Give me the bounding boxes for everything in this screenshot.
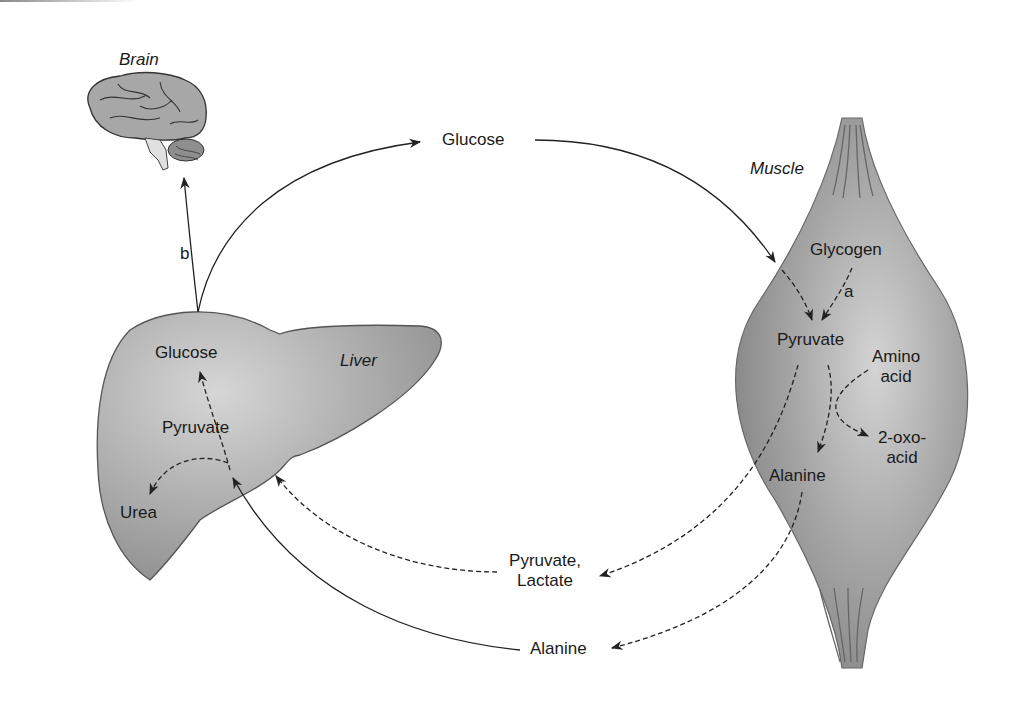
label-blood-alanine: Alanine <box>530 639 587 659</box>
label-2-oxo-acid: 2-oxo- acid <box>872 428 932 469</box>
label-liver-pyruvate: Pyruvate <box>162 418 229 438</box>
label-muscle-pyruvate: Pyruvate <box>777 330 844 350</box>
label-glycogen: Glycogen <box>810 240 882 260</box>
label-amino-acid: Amino acid <box>866 347 926 388</box>
label-blood-glucose: Glucose <box>442 130 504 150</box>
label-a: a <box>844 282 853 302</box>
label-liver: Liver <box>340 351 377 371</box>
label-pyruvate-lactate: Pyruvate, Lactate <box>500 551 590 592</box>
label-muscle: Muscle <box>750 159 804 179</box>
arrow-alanine-to-blood <box>612 492 802 648</box>
label-brain: Brain <box>119 50 159 70</box>
label-b: b <box>180 244 189 264</box>
label-liver-glucose: Glucose <box>155 343 217 363</box>
liver-shape <box>97 312 441 580</box>
brain-illustration <box>88 73 206 170</box>
diagram-canvas <box>0 0 1011 708</box>
muscle-illustration <box>736 118 968 668</box>
arrow-glucose-to-muscle <box>535 140 775 262</box>
arrow-alanine-to-liver <box>233 478 520 650</box>
arrow-pyruvate-lactate-to-liver <box>276 476 497 572</box>
label-muscle-alanine: Alanine <box>769 466 826 486</box>
label-urea: Urea <box>120 503 157 523</box>
arrow-liver-glucose-out <box>198 142 420 312</box>
